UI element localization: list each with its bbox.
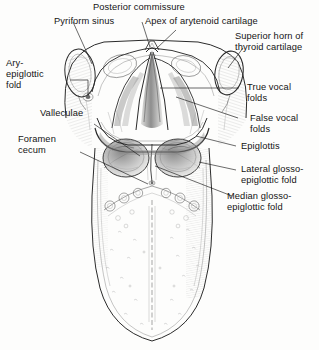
label-pyriform-sinus: Pyriform sinus	[54, 16, 114, 27]
label-posterior-commissure: Posterior commissure	[93, 2, 185, 13]
tongue-papillae-stipple	[106, 229, 199, 324]
laryngeal-inlet	[62, 40, 248, 152]
tongue-body	[92, 148, 214, 341]
label-apex-of-arytenoid-cartilage: Apex of arytenoid cartilage	[145, 16, 258, 27]
median-sulcus	[149, 200, 155, 330]
label-epiglottis: Epiglottis	[241, 141, 280, 152]
label-valleculae: Valleculae	[40, 108, 83, 119]
papilla	[105, 188, 143, 211]
leader-apex-arytenoid	[157, 30, 176, 48]
anatomical-figure: Pyriform sinus Posterior commissure Apex…	[0, 0, 319, 350]
median-glosso-epiglottic-fold	[151, 144, 152, 182]
